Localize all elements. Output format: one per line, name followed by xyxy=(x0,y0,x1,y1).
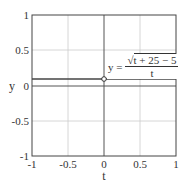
svg-text:0.5: 0.5 xyxy=(15,44,29,56)
chart: 1 0.5 0 -0.5 -1 -1 -0.5 0 0.5 1 t y xyxy=(0,0,186,188)
eq-prefix: y = xyxy=(108,61,122,73)
sqrt-icon: √ xyxy=(127,54,133,66)
eq-denominator: t xyxy=(150,67,153,79)
zero-axes xyxy=(32,15,176,156)
svg-text:0.5: 0.5 xyxy=(133,158,147,170)
eq-numerator: √t + 25 − 5 xyxy=(125,54,178,67)
eq-fraction: √t + 25 − 5 t xyxy=(125,54,178,79)
hole-marker xyxy=(102,77,107,82)
x-axis-label: t xyxy=(102,169,106,183)
svg-text:-1: -1 xyxy=(27,158,36,170)
svg-text:-0.5: -0.5 xyxy=(59,158,77,170)
svg-text:1: 1 xyxy=(173,158,179,170)
svg-text:1: 1 xyxy=(24,9,30,21)
svg-text:0: 0 xyxy=(24,80,30,92)
equation-annotation: y = √t + 25 − 5 t xyxy=(107,54,179,79)
svg-text:-0.5: -0.5 xyxy=(12,115,30,127)
y-axis-label: y xyxy=(9,79,15,93)
